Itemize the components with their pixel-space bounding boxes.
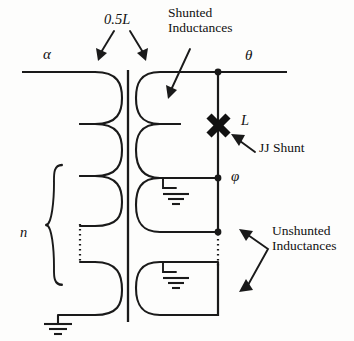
pointer-jj-shunt-line bbox=[240, 141, 255, 152]
left-coil-4 bbox=[80, 262, 122, 315]
label-shunted-inductances: Shunted Inductances bbox=[168, 6, 232, 35]
ground-left-bottom bbox=[44, 315, 80, 334]
label-node-theta: θ bbox=[245, 47, 252, 63]
node-dot-phi bbox=[215, 175, 222, 182]
label-inductance-L: L bbox=[241, 113, 249, 129]
pointer-unshunted bbox=[239, 229, 268, 292]
left-coil-1 bbox=[80, 72, 122, 124]
pointer-unshunted-head-up bbox=[239, 229, 253, 241]
pointer-shunted-line bbox=[171, 49, 190, 90]
ground-mid-stem bbox=[163, 178, 176, 188]
brace-path bbox=[46, 165, 62, 285]
ground-mid bbox=[163, 178, 189, 204]
left-coil-column bbox=[80, 72, 122, 315]
label-jj-shunt: JJ Shunt bbox=[259, 141, 304, 156]
ground-lower bbox=[163, 262, 189, 288]
pointer-half-l-left bbox=[96, 31, 114, 61]
node-dot-lower bbox=[215, 229, 222, 236]
left-coil-2 bbox=[80, 124, 122, 176]
pointer-half-l-right bbox=[130, 31, 148, 61]
pointer-half-l-left-line bbox=[100, 31, 114, 54]
label-node-alpha: α bbox=[43, 46, 51, 62]
pointer-shunted bbox=[166, 49, 190, 99]
pointer-half-l-right-line bbox=[130, 31, 144, 54]
pointer-jj-shunt bbox=[231, 134, 255, 152]
ground-left-stem bbox=[58, 315, 80, 324]
right-coil-shunted-2 bbox=[136, 124, 218, 178]
circuit-schematic-canvas bbox=[0, 0, 354, 341]
label-count-n: n bbox=[20, 225, 27, 241]
coil-count-brace bbox=[46, 165, 62, 285]
node-dot-theta bbox=[215, 69, 222, 76]
label-unshunted-inductances: Unshunted Inductances bbox=[272, 224, 336, 253]
ground-lower-stem bbox=[163, 262, 176, 272]
label-node-phi: φ bbox=[231, 168, 239, 184]
right-coil-shunted-1 bbox=[136, 72, 218, 124]
pointer-unshunted-line bbox=[248, 235, 268, 285]
left-coil-3 bbox=[80, 176, 122, 226]
circuit-figure: Shunted Inductances Unshunted Inductance… bbox=[0, 0, 354, 341]
label-half-inductance: 0.5L bbox=[104, 12, 130, 28]
